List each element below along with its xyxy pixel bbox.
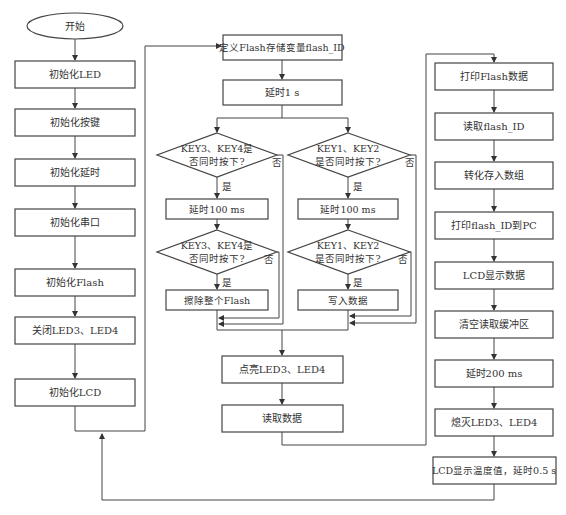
yes-label: 是 — [222, 181, 232, 192]
print-flash-data-box: 打印Flash数据 — [435, 63, 553, 90]
write-data-box: 写入数据 — [298, 290, 398, 310]
svg-text:写入数据: 写入数据 — [328, 295, 368, 306]
svg-text:KEY3、KEY4是: KEY3、KEY4是 — [181, 240, 254, 251]
svg-text:打印flash_ID到PC: 打印flash_ID到PC — [451, 219, 537, 232]
svg-text:否同时按下?: 否同时按下? — [189, 156, 244, 167]
no-label: 否 — [398, 254, 408, 265]
no-label: 否 — [264, 254, 274, 265]
read-flash-id-box: 读取flash_ID — [435, 113, 553, 140]
yes-label: 是 — [222, 277, 232, 288]
svg-text:延时100 ms: 延时100 ms — [320, 204, 375, 215]
init-led-box: 初始化LED — [15, 61, 135, 88]
svg-text:清空读取缓冲区: 清空读取缓冲区 — [459, 318, 529, 330]
svg-text:读取数据: 读取数据 — [262, 412, 302, 424]
svg-text:是否同时按下?: 是否同时按下? — [315, 253, 380, 264]
svg-text:延时100 ms: 延时100 ms — [189, 204, 244, 215]
yes-label: 是 — [353, 181, 363, 192]
clear-buffer-box: 清空读取缓冲区 — [435, 311, 553, 338]
svg-text:延时200 ms: 延时200 ms — [466, 368, 523, 379]
svg-text:KEY1、KEY2: KEY1、KEY2 — [317, 143, 380, 154]
decision-key34-2: KEY3、KEY4是 否同时按下? — [157, 230, 277, 274]
svg-text:初始化串口: 初始化串口 — [50, 216, 100, 228]
init-delay-box: 初始化延时 — [15, 159, 135, 186]
close-led-box: 关闭LED3、LED4 — [15, 317, 135, 344]
svg-text:是否同时按下?: 是否同时按下? — [315, 156, 380, 167]
delay-1s-box: 延时1 s — [223, 80, 342, 105]
lcd-show-data-box: LCD显示数据 — [435, 262, 553, 289]
decision-key34-1: KEY3、KEY4是 否同时按下? — [157, 133, 277, 177]
svg-text:熄灭LED3、LED4: 熄灭LED3、LED4 — [451, 416, 538, 428]
svg-text:读取flash_ID: 读取flash_ID — [463, 120, 524, 133]
init-flash-box: 初始化Flash — [15, 269, 135, 296]
led-on-box: 点亮LED3、LED4 — [222, 356, 343, 383]
svg-text:初始化延时: 初始化延时 — [50, 166, 100, 178]
svg-text:LCD显示温度值，延时0.5 s: LCD显示温度值，延时0.5 s — [432, 465, 556, 476]
svg-text:初始化Flash: 初始化Flash — [46, 276, 104, 288]
svg-text:初始化按键: 初始化按键 — [50, 116, 100, 128]
svg-text:延时1 s: 延时1 s — [265, 87, 300, 98]
svg-text:关闭LED3、LED4: 关闭LED3、LED4 — [32, 324, 119, 336]
define-flash-var-box: 定义Flash存储变量flash_ID — [219, 35, 345, 60]
svg-text:否同时按下?: 否同时按下? — [189, 253, 244, 264]
no-label: 否 — [405, 157, 415, 168]
delay-100ms-right-box: 延时100 ms — [298, 199, 398, 219]
svg-text:打印Flash数据: 打印Flash数据 — [460, 70, 528, 82]
lcd-temperature-box: LCD显示温度值，延时0.5 s — [432, 457, 556, 484]
svg-text:点亮LED3、LED4: 点亮LED3、LED4 — [239, 363, 326, 375]
svg-text:擦除整个Flash: 擦除整个Flash — [184, 295, 250, 306]
no-label: 否 — [272, 157, 282, 168]
svg-text:初始化LCD: 初始化LCD — [49, 386, 101, 398]
erase-flash-box: 擦除整个Flash — [166, 290, 268, 310]
init-lcd-box: 初始化LCD — [15, 379, 135, 406]
svg-text:定义Flash存储变量flash_ID: 定义Flash存储变量flash_ID — [219, 42, 345, 54]
delay-200ms-box: 延时200 ms — [435, 360, 553, 387]
delay-100ms-left-box: 延时100 ms — [166, 199, 268, 219]
svg-text:初始化LED: 初始化LED — [49, 68, 101, 80]
svg-text:转化存入数组: 转化存入数组 — [464, 169, 524, 181]
read-data-box: 读取数据 — [222, 405, 343, 432]
start-label: 开始 — [65, 20, 85, 32]
led-off-box: 熄灭LED3、LED4 — [435, 409, 553, 436]
init-keys-box: 初始化按键 — [15, 109, 135, 136]
print-id-to-pc-box: 打印flash_ID到PC — [435, 212, 553, 239]
decision-key12-2: KEY1、KEY2 是否同时按下? — [288, 230, 410, 274]
init-uart-box: 初始化串口 — [15, 209, 135, 236]
svg-text:KEY3、KEY4是: KEY3、KEY4是 — [181, 143, 254, 154]
flowchart: 开始 初始化LED 初始化按键 初始化延时 初始化串口 初始化Flash 关闭L… — [0, 0, 566, 515]
yes-label: 是 — [353, 277, 363, 288]
svg-text:KEY1、KEY2: KEY1、KEY2 — [317, 240, 380, 251]
decision-key12-1: KEY1、KEY2 是否同时按下? — [288, 133, 410, 177]
svg-text:LCD显示数据: LCD显示数据 — [463, 269, 525, 281]
convert-array-box: 转化存入数组 — [435, 162, 553, 189]
